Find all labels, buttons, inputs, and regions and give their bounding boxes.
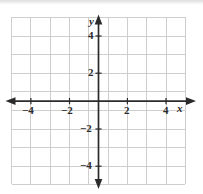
x-tick-label-neg4: −4 — [22, 105, 34, 116]
y-tick-label-neg4: −4 — [80, 160, 92, 171]
x-tick-label-pos4: 4 — [163, 105, 169, 116]
y-axis-arrow-up — [95, 15, 103, 25]
y-tick-label-pos2: 2 — [88, 67, 94, 78]
coordinate-plane-figure: −4 −2 2 4 4 2 −2 −4 y x — [0, 0, 203, 194]
coordinate-grid-svg — [0, 0, 203, 194]
x-axis-label: x — [177, 103, 183, 114]
x-tick-label-pos2: 2 — [124, 105, 130, 116]
y-axis-label: y — [89, 16, 94, 27]
y-tick-label-neg2: −2 — [80, 123, 92, 134]
x-axis-arrow-left — [6, 97, 16, 105]
x-tick-label-neg2: −2 — [61, 105, 73, 116]
x-axis-arrow-right — [186, 97, 196, 105]
y-tick-label-pos4: 4 — [88, 30, 94, 41]
